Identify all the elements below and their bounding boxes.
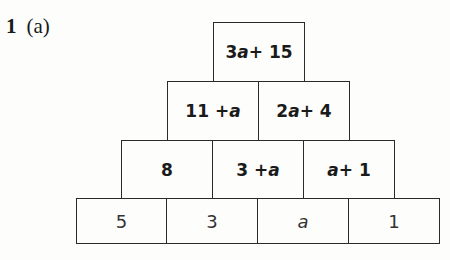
pyramid-cell-r2-c1: 11 + a	[167, 81, 259, 141]
pyramid-cell-r4-c3: a	[257, 198, 349, 244]
pyramid-cell-r3-c2: 3 + a	[212, 140, 304, 199]
variable-a: a	[327, 160, 338, 180]
pyramid-cell-r4-c4: 1	[348, 198, 440, 244]
variable-a: a	[268, 160, 279, 180]
variable-a: a	[297, 211, 308, 232]
question-part: (a)	[27, 14, 50, 38]
pyramid-cell-r2-c2: 2a + 4	[258, 81, 350, 141]
pyramid-cell-r3-c1: 8	[121, 140, 213, 199]
pyramid-cell-r4-c2: 3	[166, 198, 258, 244]
question-number: 1	[6, 14, 17, 38]
pyramid-cell-r4-c1: 5	[76, 198, 167, 244]
pyramid-cell-r3-c3: a + 1	[303, 140, 395, 199]
pyramid-cell-r1-c1: 3a + 15	[213, 22, 305, 82]
variable-a: a	[237, 42, 248, 62]
variable-a: a	[229, 101, 240, 121]
variable-a: a	[288, 101, 299, 121]
question-label: 1(a)	[6, 14, 50, 39]
